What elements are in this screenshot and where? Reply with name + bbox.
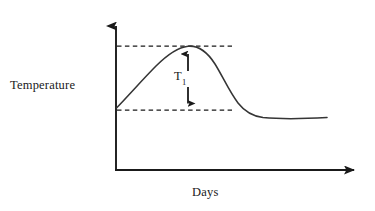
t1-annotation-label: T1 xyxy=(174,70,186,85)
temperature-curve xyxy=(117,46,328,119)
t1-subscript: 1 xyxy=(182,77,186,87)
temperature-days-figure: Temperature Days T1 xyxy=(0,0,375,211)
x-axis-label: Days xyxy=(192,186,219,199)
y-axis-label: Temperature xyxy=(10,79,75,92)
chart-canvas xyxy=(0,0,375,211)
t1-symbol: T xyxy=(174,69,182,83)
